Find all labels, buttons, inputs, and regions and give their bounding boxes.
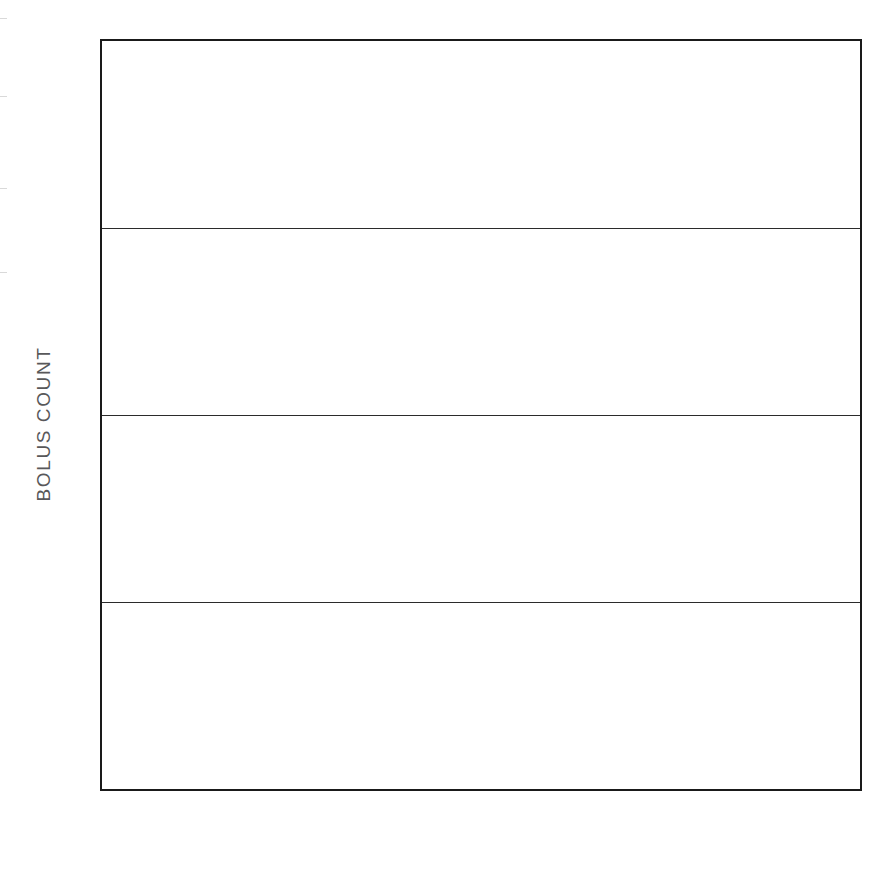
plot-area	[100, 39, 862, 791]
scan-edge-mark	[0, 18, 7, 19]
gridline-10	[102, 415, 860, 416]
bar-chart: BOLUS COUNT	[0, 0, 883, 896]
gridline-5	[102, 602, 860, 603]
gridline-15	[102, 228, 860, 229]
y-axis-tick-labels	[0, 39, 86, 787]
